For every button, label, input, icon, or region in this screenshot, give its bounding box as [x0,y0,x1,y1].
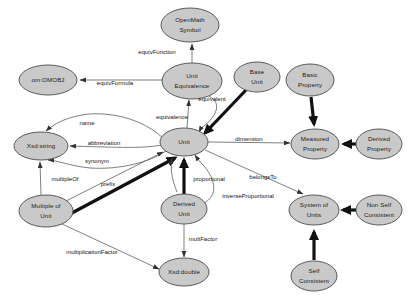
node-om-omobj[interactable]: om:OMOBJ [19,65,77,95]
node-openmath-symbol[interactable]: OpenMath Symbol [161,8,219,42]
node-unit[interactable]: Unit [160,128,208,156]
node-label-unit-equivalence-line2: Equivalence [175,82,210,89]
node-xsd-double[interactable]: Xsd:double [159,258,209,286]
node-label-derived-unit-line1: Derived [173,200,195,207]
ontology-diagram: OpenMath Symbol om:OMOBJ Unit Equivalenc… [0,0,416,305]
node-multiple-of-unit[interactable]: Multiple of Unit [19,195,73,227]
edge-label-proportional: proportional [193,176,225,182]
node-label-xsd-double: Xsd:double [168,268,200,275]
node-label-measured-property-line2: Property [303,145,328,152]
node-label-basic-property-line1: Basic [302,71,318,78]
node-unit-equivalence[interactable]: Unit Equivalence [162,63,222,99]
node-label-multiple-of-unit-line1: Multiple of [31,202,60,209]
node-label-non-self-consistent-line1: Non Self [367,201,392,208]
node-self-consistent[interactable]: Self Consistent [291,261,337,291]
edge-label-multiplication-factor: multiplicationFactor [66,249,118,255]
edge-belongs-to [205,150,303,194]
edge-label-equiv-function: equivFunction [138,49,175,55]
edge-label-equivalent: equivalent [198,96,226,102]
node-non-self-consistent[interactable]: Non Self Consistent [356,195,402,225]
node-label-measured-property-line1: Measured [301,135,330,142]
node-label-basic-property-line2: Property [298,81,323,88]
edge-label-belongs-to: belongsTo [249,174,277,180]
node-label-system-of-units-line1: System of [300,201,329,208]
node-label-derived-property-line1: Derived [368,135,390,142]
node-label-base-unit-line1: Base [250,68,265,75]
diagram-canvas: OpenMath Symbol om:OMOBJ Unit Equivalenc… [0,0,416,305]
node-label-unit: Unit [178,138,190,145]
node-label-openmath-symbol-line1: OpenMath [175,16,205,23]
node-label-non-self-consistent-line2: Consistent [364,211,394,218]
node-label-om-omobj: om:OMOBJ [31,76,64,83]
edge-label-inverse-proportional: inverseProportional [222,193,274,199]
node-label-unit-equivalence-line1: Unit [186,72,198,79]
edge-basic-to-measured [311,97,314,124]
edge-label-synonym: synonym [85,158,109,164]
node-xsd-string[interactable]: Xsd:string [14,132,68,160]
node-label-derived-unit-line2: Unit [178,210,190,217]
edge-label-equiv-formula: equivFormula [97,80,134,86]
node-measured-property[interactable]: Measured Property [291,129,339,159]
node-derived-unit[interactable]: Derived Unit [161,194,207,224]
edge-multiplication-factor [62,224,159,269]
node-label-multiple-of-unit-line2: Unit [40,212,52,219]
edge-label-equivalence: equivalence [156,114,189,120]
node-label-openmath-symbol-line2: Symbol [179,26,200,33]
edge-label-mult-factor: multFactor [189,236,217,242]
node-label-base-unit-line2: Unit [251,78,263,85]
edge-dimension [208,142,290,143]
node-derived-property[interactable]: Derived Property [356,129,402,159]
node-label-derived-property-line2: Property [367,145,392,152]
edge-proportional [171,158,177,192]
node-system-of-units[interactable]: System of Units [289,195,339,225]
edge-label-prefix: prefix [101,181,116,187]
edge-multiple-of [40,162,41,195]
node-label-self-consistent-line1: Self [308,267,319,274]
node-base-unit[interactable]: Base Unit [234,62,280,92]
node-label-xsd-string: Xsd:string [27,142,56,149]
node-label-self-consistent-line2: Consistent [299,277,329,284]
edge-label-multiple-of: multipleOf [51,176,78,182]
edge-label-abbreviation: abbreviation [88,140,121,146]
node-basic-property[interactable]: Basic Property [286,64,334,96]
edge-name [46,114,163,138]
edge-prefix [66,152,163,201]
node-label-system-of-units-line2: Units [307,211,322,218]
edge-label-name: name [79,120,95,126]
edge-label-dimension: dimension [235,136,262,142]
